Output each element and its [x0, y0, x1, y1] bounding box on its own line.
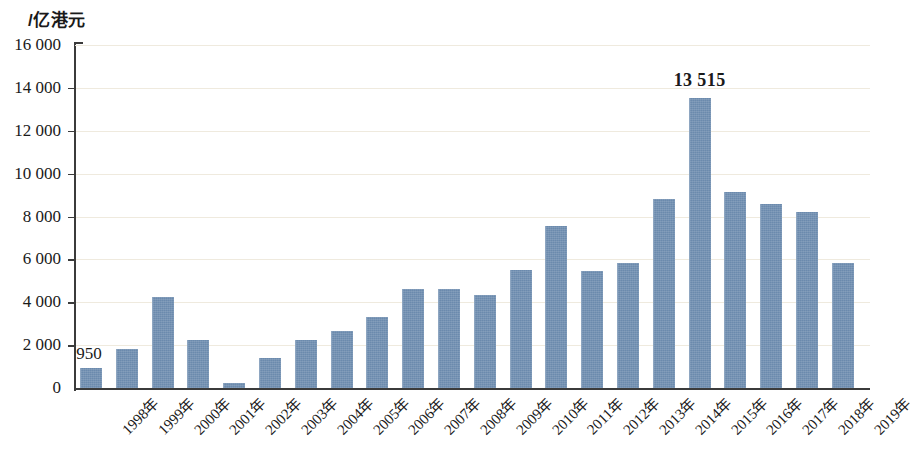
y-axis-top-cap — [74, 42, 83, 44]
bar — [223, 383, 245, 388]
x-axis-tick-label: 2010年 — [546, 392, 593, 439]
x-axis-tick-label: 2016年 — [761, 392, 808, 439]
y-axis-tick-label: 10 000 — [14, 164, 61, 184]
bar — [474, 295, 496, 388]
x-axis-line — [74, 388, 870, 390]
x-axis-tick-label: 2003年 — [295, 392, 342, 439]
data-label: 950 — [76, 344, 102, 364]
y-axis-tick-label: 8 000 — [23, 207, 61, 227]
x-axis-tick-label: 2009年 — [510, 392, 557, 439]
plot-area: 02 0004 0006 0008 00010 00012 00014 0001… — [75, 45, 870, 388]
bar — [331, 331, 353, 388]
bar — [581, 271, 603, 388]
bar — [402, 289, 424, 388]
x-axis-tick-label: 2001年 — [224, 392, 271, 439]
x-axis-tick-label: 2008年 — [474, 392, 521, 439]
x-axis-tick-label: 2005年 — [367, 392, 414, 439]
bar — [295, 340, 317, 388]
data-label: 13 515 — [674, 70, 726, 91]
bar — [80, 368, 102, 388]
bars — [75, 45, 870, 388]
bar — [259, 358, 281, 388]
y-axis-tick-label: 2 000 — [23, 335, 61, 355]
bar — [510, 270, 532, 388]
x-axis-tick-labels: 1998年1999年2000年2001年2002年2003年2004年2005年… — [75, 392, 875, 456]
y-axis-tick-label: 0 — [53, 378, 62, 398]
y-axis-unit-label: /亿港元 — [28, 6, 86, 31]
y-axis-tick-label: 4 000 — [23, 292, 61, 312]
bar — [724, 192, 746, 388]
bar — [689, 98, 711, 388]
bar — [760, 204, 782, 388]
x-axis-tick-label: 2002年 — [259, 392, 306, 439]
x-axis-tick-label: 2017年 — [796, 392, 843, 439]
x-axis-tick-label: 2006年 — [403, 392, 450, 439]
bar — [152, 297, 174, 388]
bar — [832, 263, 854, 388]
x-axis-tick-label: 2019年 — [868, 392, 914, 439]
x-axis-tick-label: 1998年 — [116, 392, 163, 439]
x-axis-tick-label: 2018年 — [832, 392, 879, 439]
y-axis-tick-label: 6 000 — [23, 249, 61, 269]
x-axis-tick-label: 2004年 — [331, 392, 378, 439]
bar — [438, 289, 460, 388]
bar — [116, 349, 138, 388]
x-axis-tick-label: 2000年 — [188, 392, 235, 439]
bar — [617, 263, 639, 388]
bar — [366, 317, 388, 388]
bar — [545, 226, 567, 388]
y-axis-tick-label: 14 000 — [14, 78, 61, 98]
x-axis-tick-label: 1999年 — [152, 392, 199, 439]
x-axis-tick-label: 2015年 — [725, 392, 772, 439]
y-axis-tick-label: 16 000 — [14, 35, 61, 55]
y-axis-tick-label: 12 000 — [14, 121, 61, 141]
x-axis-tick-label: 2012年 — [617, 392, 664, 439]
x-axis-tick-label: 2013年 — [653, 392, 700, 439]
x-axis-tick-label: 2014年 — [689, 392, 736, 439]
bar — [796, 212, 818, 388]
bar — [187, 340, 209, 388]
x-axis-tick-label: 2011年 — [581, 392, 627, 438]
bar — [653, 199, 675, 388]
x-axis-tick-label: 2007年 — [438, 392, 485, 439]
